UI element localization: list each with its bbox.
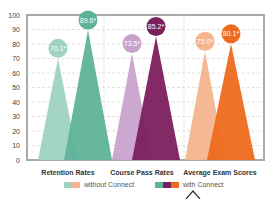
svg-text:70.1*: 70.1* xyxy=(50,45,67,52)
svg-text:0: 0 xyxy=(16,157,20,164)
svg-text:Retention Rates: Retention Rates xyxy=(41,169,94,176)
svg-text:100: 100 xyxy=(8,12,20,19)
svg-text:80.1*: 80.1* xyxy=(223,30,240,37)
swatch xyxy=(171,182,179,188)
svg-text:60: 60 xyxy=(12,70,20,77)
svg-text:90: 90 xyxy=(12,26,20,33)
svg-text:20: 20 xyxy=(12,128,20,135)
legend-label: without Connect xyxy=(84,181,134,188)
legend-without: without Connect xyxy=(64,181,134,188)
svg-text:10: 10 xyxy=(12,142,20,149)
swatch xyxy=(163,182,171,188)
svg-text:80: 80 xyxy=(12,41,20,48)
swatch xyxy=(72,182,80,188)
swatch xyxy=(155,182,163,188)
svg-text:40: 40 xyxy=(12,99,20,106)
legend-with: with Connect xyxy=(155,181,223,188)
legend-label: with Connect xyxy=(183,181,223,188)
svg-text:75.0*: 75.0* xyxy=(197,38,214,45)
svg-text:50: 50 xyxy=(12,84,20,91)
svg-text:70: 70 xyxy=(12,55,20,62)
svg-text:Course Pass Rates: Course Pass Rates xyxy=(110,169,174,176)
svg-text:85.2*: 85.2* xyxy=(148,23,165,30)
swatch xyxy=(64,182,72,188)
svg-text:89.6*: 89.6* xyxy=(80,17,97,24)
svg-text:30: 30 xyxy=(12,113,20,120)
triangle-bar-chart: 010203040506070809010070.1*89.6*Retentio… xyxy=(0,0,271,199)
svg-text:73.5*: 73.5* xyxy=(124,40,141,47)
svg-text:Average Exam Scores: Average Exam Scores xyxy=(183,169,256,177)
